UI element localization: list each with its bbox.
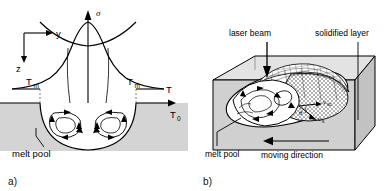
panel-a-caption: a)	[8, 176, 17, 187]
laser-beam-label: laser beam	[229, 28, 271, 38]
gradient-line-right	[106, 48, 109, 103]
solidified-layer-label: solidified layer	[315, 28, 369, 38]
t0-axis-label-base: T	[170, 109, 176, 120]
temperature-axis-label: T	[166, 84, 172, 95]
tm-label-right-sub: m	[135, 82, 140, 89]
tm-label-left-sub: m	[34, 82, 39, 89]
panel-a: σ y z T m T m T T 0 melt pool a)	[0, 0, 196, 191]
velocity-scan-label-sub: sc	[327, 102, 332, 107]
t0-axis-label-sub: 0	[177, 115, 181, 122]
sigma-axis-label: σ	[96, 8, 101, 18]
coord-z-label: z	[16, 63, 21, 74]
panel-b-caption: b)	[203, 176, 212, 187]
coord-y-label: y	[56, 28, 61, 39]
panel-a-drawing: σ y z T m T m T T 0 melt pool	[0, 0, 196, 191]
velocity-scan-label-base: v	[323, 99, 326, 105]
tm-label-right-base: T	[127, 76, 133, 87]
tm-label-left: T m	[26, 76, 39, 89]
velocity-solid-label-base: v	[318, 116, 321, 122]
moving-direction-label: moving direction	[261, 150, 323, 160]
melt-pool-label-a: melt pool	[12, 148, 51, 159]
panel-b-drawing: v sc v s θ laser beam solidified layer m…	[195, 0, 391, 191]
gradient-line-left	[67, 48, 70, 103]
melt-pool-label-b: melt pool	[205, 149, 240, 159]
figure-container: σ y z T m T m T T 0 melt pool a)	[0, 0, 391, 191]
sigma-axis-arrowhead	[85, 10, 92, 20]
tm-label-left-base: T	[26, 76, 32, 87]
coord-axis-z-arrowhead	[21, 56, 27, 63]
panel-b: v sc v s θ laser beam solidified layer m…	[195, 0, 391, 191]
